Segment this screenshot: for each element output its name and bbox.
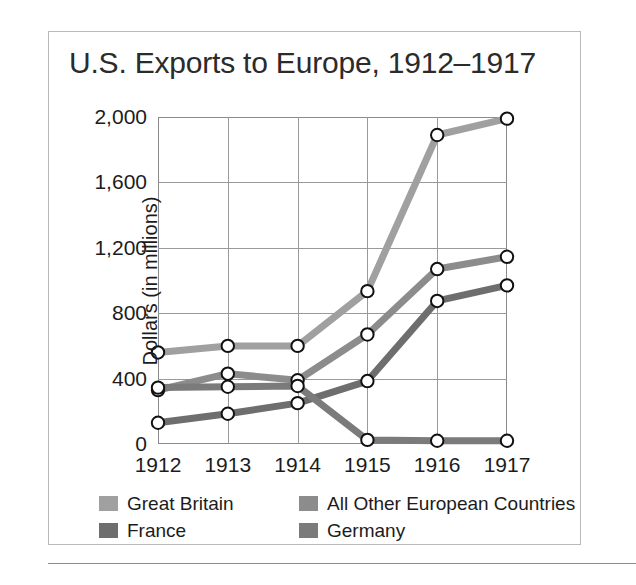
legend-label: Germany: [327, 520, 405, 542]
data-point-marker: [501, 279, 513, 291]
legend-swatch: [299, 496, 318, 511]
data-point-marker: [501, 435, 513, 447]
legend-item: Germany: [299, 520, 579, 542]
data-point-marker: [291, 397, 303, 409]
data-point-marker: [361, 375, 373, 387]
y-axis-tick-label: 1,600: [94, 170, 147, 194]
legend-label: Great Britain: [127, 493, 234, 515]
x-axis-tick-label: 1917: [484, 453, 531, 477]
x-axis-tick-label: 1913: [204, 453, 251, 477]
chart-figure: U.S. Exports to Europe, 1912–1917 040080…: [48, 31, 581, 545]
data-point-marker: [291, 380, 303, 392]
series-line: [158, 257, 507, 390]
legend-label: All Other European Countries: [327, 493, 575, 515]
data-point-marker: [222, 408, 234, 420]
legend-item: France: [99, 520, 299, 542]
x-axis-tick-label: 1914: [274, 453, 321, 477]
series-canvas: [158, 117, 507, 444]
data-point-marker: [222, 340, 234, 352]
x-axis-tick-label: 1912: [135, 453, 182, 477]
chart-title: U.S. Exports to Europe, 1912–1917: [69, 46, 536, 80]
legend-swatch: [99, 496, 118, 511]
y-axis-tick-label: 400: [112, 367, 147, 391]
data-point-marker: [501, 112, 513, 124]
data-point-marker: [152, 417, 164, 429]
legend-swatch: [299, 523, 318, 538]
data-point-marker: [361, 285, 373, 297]
chart-legend: Great BritainAll Other European Countrie…: [99, 490, 569, 544]
y-axis-tick-label: 2,000: [94, 105, 147, 129]
plot-area: 04008001,2001,6002,000 19121913191419151…: [158, 117, 507, 444]
x-axis-tick-label: 1916: [414, 453, 461, 477]
page-divider: [48, 563, 636, 564]
data-point-marker: [431, 263, 443, 275]
legend-item: All Other European Countries: [299, 493, 579, 515]
data-point-marker: [152, 381, 164, 393]
data-point-marker: [361, 328, 373, 340]
data-point-marker: [431, 435, 443, 447]
data-point-marker: [361, 434, 373, 446]
data-point-marker: [222, 367, 234, 379]
x-axis-tick-label: 1915: [344, 453, 391, 477]
legend-swatch: [99, 523, 118, 538]
series-line: [158, 119, 507, 353]
data-point-marker: [431, 129, 443, 141]
data-point-marker: [291, 340, 303, 352]
data-point-marker: [431, 295, 443, 307]
data-point-marker: [222, 381, 234, 393]
data-point-marker: [501, 251, 513, 263]
legend-label: France: [127, 520, 186, 542]
y-axis-title: Dollars (in millions): [139, 196, 162, 365]
legend-item: Great Britain: [99, 493, 299, 515]
